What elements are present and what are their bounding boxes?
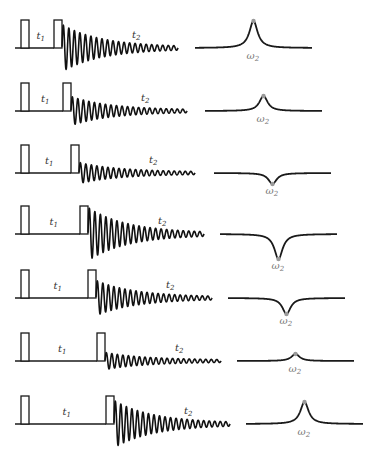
- omega2-label: ω2: [247, 50, 260, 63]
- rf-pulse-1: [21, 396, 29, 424]
- rf-pulse-2: [54, 20, 62, 48]
- omega2-label: ω2: [257, 113, 270, 126]
- t1-label: t1: [63, 406, 72, 419]
- sequence-row-5: t1t2ω2: [15, 270, 345, 328]
- peak-marker: [251, 19, 255, 23]
- spectrum-line: [195, 21, 312, 48]
- rf-pulse-2: [63, 83, 71, 111]
- t1-label: t1: [41, 93, 50, 106]
- t2-label: t2: [175, 342, 184, 355]
- spectrum-line: [246, 402, 363, 424]
- t2-label: t2: [166, 279, 175, 292]
- t2-label: t2: [141, 92, 150, 105]
- t2-label: t2: [184, 405, 193, 418]
- spectrum-line: [228, 298, 345, 314]
- omega2-label: ω2: [280, 315, 293, 328]
- rf-pulse-1: [21, 83, 29, 111]
- omega2-label: ω2: [298, 426, 311, 439]
- t2-label: t2: [158, 215, 167, 228]
- t1-label: t1: [37, 30, 46, 43]
- fid-signal: [96, 281, 212, 314]
- sequence-row-1: t1t2ω2: [15, 19, 312, 70]
- sequence-row-3: t1t2ω2: [15, 145, 331, 198]
- fid-signal: [88, 208, 204, 258]
- fid-signal: [105, 353, 221, 369]
- t1-label: t1: [58, 343, 67, 356]
- omega2-label: ω2: [266, 185, 279, 198]
- peak-marker: [302, 400, 306, 404]
- sequence-row-6: t1t2ω2: [15, 333, 354, 376]
- rf-pulse-1: [21, 270, 29, 298]
- peak-marker: [293, 352, 297, 356]
- rf-pulse-2: [88, 270, 96, 298]
- sequence-row-7: t1t2ω2: [15, 396, 363, 445]
- rf-pulse-2: [97, 333, 105, 361]
- t1-label: t1: [50, 216, 59, 229]
- t2-label: t2: [149, 154, 158, 167]
- rf-pulse-2: [71, 145, 79, 173]
- omega2-label: ω2: [289, 363, 302, 376]
- fid-signal: [62, 25, 178, 69]
- fid-signal: [79, 163, 195, 183]
- rf-pulse-1: [21, 206, 29, 234]
- fid-signal: [71, 97, 187, 124]
- rf-pulse-1: [21, 145, 29, 173]
- rf-pulse-2: [80, 206, 88, 234]
- sequence-row-4: t1t2ω2: [15, 206, 337, 273]
- rf-pulse-1: [21, 333, 29, 361]
- peak-marker: [261, 94, 265, 98]
- t1-label: t1: [45, 155, 54, 168]
- spectrum-line: [220, 234, 337, 259]
- fid-signal: [114, 401, 230, 445]
- spectrum-line: [205, 96, 322, 111]
- rf-pulse-2: [106, 396, 114, 424]
- t2-label: t2: [132, 29, 141, 42]
- omega2-label: ω2: [272, 260, 285, 273]
- t1-label: t1: [54, 280, 63, 293]
- rf-pulse-1: [21, 20, 29, 48]
- nmr-2d-diagram: t1t2ω2t1t2ω2t1t2ω2t1t2ω2t1t2ω2t1t2ω2t1t2…: [0, 0, 373, 449]
- sequence-row-2: t1t2ω2: [15, 83, 322, 126]
